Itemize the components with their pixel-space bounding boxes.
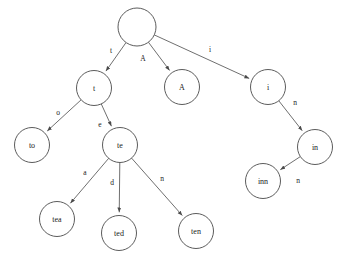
- edge-label-t-te: e: [98, 120, 102, 129]
- trie-graph-canvas: tAioeadnnn tAitoteininnteatedten: [0, 0, 343, 262]
- edge-label-te-ted: d: [110, 178, 114, 187]
- trie-node-to[interactable]: to: [15, 128, 50, 163]
- edge-label-te-tea: a: [83, 168, 87, 177]
- edge-label-root-t: t: [110, 46, 113, 55]
- edge-te-to-ten: [132, 158, 183, 215]
- edge-label-root-A: A: [140, 54, 146, 63]
- edge-root-to-i: [154, 35, 249, 78]
- node-circle-root[interactable]: [118, 8, 156, 46]
- node-label-te: te: [117, 141, 123, 150]
- trie-node-i[interactable]: i: [251, 70, 286, 105]
- edge-te-to-ted: [119, 163, 120, 213]
- trie-node-A[interactable]: A: [165, 70, 200, 105]
- node-label-inn: inn: [258, 177, 268, 186]
- trie-node-te[interactable]: te: [103, 128, 138, 163]
- trie-node-tea[interactable]: tea: [40, 202, 75, 237]
- edge-te-to-tea: [70, 158, 108, 203]
- node-label-in: in: [312, 143, 318, 152]
- edge-label-i-in: n: [293, 98, 297, 107]
- node-label-A: A: [179, 83, 185, 92]
- nodes-layer: tAitoteininnteatedten: [15, 8, 333, 251]
- trie-node-ted[interactable]: ted: [102, 216, 137, 251]
- edge-label-t-to: o: [56, 108, 60, 117]
- node-label-tea: tea: [52, 215, 62, 224]
- trie-node-in[interactable]: in: [298, 130, 333, 165]
- edge-t-to-to: [47, 100, 81, 131]
- edge-root-to-A: [148, 42, 169, 70]
- trie-node-root[interactable]: [118, 8, 156, 46]
- trie-node-ten[interactable]: ten: [179, 214, 214, 249]
- edge-in-to-inn: [280, 157, 300, 170]
- edge-label-in-inn: n: [296, 176, 300, 185]
- edge-root-to-t: [106, 43, 126, 72]
- edge-label-root-i: i: [209, 45, 211, 54]
- node-label-to: to: [29, 141, 35, 150]
- edge-label-te-ten: n: [160, 174, 164, 183]
- edge-t-to-te: [101, 104, 111, 126]
- node-label-ten: ten: [191, 227, 201, 236]
- edge-i-to-in: [279, 101, 302, 131]
- node-label-ted: ted: [114, 229, 124, 238]
- trie-node-inn[interactable]: inn: [246, 164, 281, 199]
- trie-diagram: tAioeadnnn tAitoteininnteatedten: [0, 0, 343, 262]
- trie-node-t[interactable]: t: [77, 71, 112, 106]
